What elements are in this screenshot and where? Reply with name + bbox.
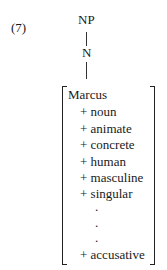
feature-singular: + singular [80,186,132,202]
feature-human: + human [80,154,126,170]
branch-line-np-n [86,32,87,46]
left-bracket [62,86,67,265]
branch-line-n-matrix [86,62,87,79]
example-number: (7) [11,20,26,36]
feature-animate: + animate [80,121,132,137]
feature-masculine: + masculine [80,170,143,186]
np-node: NP [78,12,95,28]
n-node: N [82,45,91,61]
ellipsis-dot: . [95,230,98,246]
feature-accusative: + accusative [80,247,145,263]
ellipsis-dot: . [95,215,98,231]
ellipsis-dot: . [95,199,98,215]
feature-concrete: + concrete [80,137,135,153]
right-bracket [150,86,155,265]
matrix-head-word: Marcus [68,87,107,103]
feature-noun: + noun [80,104,117,120]
